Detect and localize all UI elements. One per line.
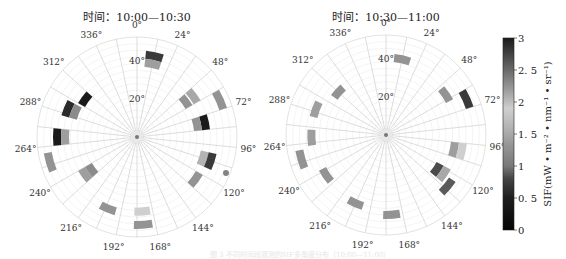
colorbar-ticks: 00. 511. 522. 53 xyxy=(514,33,537,236)
colorbar-tick-label: 2. 5 xyxy=(518,65,537,76)
colorbar-tick-label: 0 xyxy=(518,225,524,236)
azimuth-tick-label: 312° xyxy=(43,57,65,67)
figure-caption: 图 3 不同时间段观测的SIF多角度分布（10:00—11:00） xyxy=(210,250,391,259)
polar-plot-1030-1100: 时间：10:30—11:00 20°40°0°24°48°72°96°120°1… xyxy=(264,11,506,250)
azimuth-tick-label: 264° xyxy=(264,142,286,152)
sif-patch xyxy=(307,130,316,146)
azimuth-tick-label: 96° xyxy=(240,144,256,154)
radial-tick-label: 20° xyxy=(129,94,145,104)
azimuth-tick-label: 48° xyxy=(212,57,228,67)
sif-patch xyxy=(99,202,117,215)
sif-point xyxy=(223,170,229,176)
sif-patch xyxy=(44,152,57,172)
azimuth-tick-label: 48° xyxy=(461,55,477,65)
azimuth-tick-label: 72° xyxy=(236,97,252,107)
sif-patch xyxy=(295,150,308,170)
sif-patch xyxy=(134,220,153,229)
radial-tick-label: 40° xyxy=(378,54,394,64)
azimuth-tick-label: 216° xyxy=(309,221,331,231)
azimuth-tick-label: 24° xyxy=(424,28,440,38)
azimuth-tick-label: 168° xyxy=(149,242,171,252)
sif-patch xyxy=(459,89,474,109)
radial-tick-label: 40° xyxy=(129,56,145,66)
colorbar-gradient xyxy=(503,38,514,230)
azimuth-tick-label: 168° xyxy=(398,240,420,250)
azimuth-tick-label: 144° xyxy=(192,223,214,233)
azimuth-tick-label: 336° xyxy=(330,28,352,38)
azimuth-tick-label: 0° xyxy=(381,18,391,28)
colorbar-tick-label: 3 xyxy=(518,33,524,44)
sif-patch xyxy=(310,101,323,118)
colorbar-label: SIF(mW • m⁻² • nm⁻¹ • sr⁻¹) xyxy=(542,61,553,206)
azimuth-tick-label: 192° xyxy=(103,242,125,252)
sif-patch xyxy=(53,128,61,146)
colorbar: 00. 511. 522. 53 SIF(mW • m⁻² • nm⁻¹ • s… xyxy=(503,33,553,236)
colorbar-tick-label: 0. 5 xyxy=(518,193,537,204)
azimuth-tick-label: 0° xyxy=(132,20,142,30)
azimuth-tick-label: 240° xyxy=(278,186,300,196)
radial-tick-label: 20° xyxy=(378,92,394,102)
sif-polar-figure: 时间：10:00—10:30 20°40°0°24°48°72°96°120°1… xyxy=(0,0,566,259)
sif-patch xyxy=(134,207,150,216)
colorbar-tick-label: 2 xyxy=(518,97,524,108)
colorbar-tick-label: 1 xyxy=(518,161,524,172)
sif-patch xyxy=(78,91,92,107)
sif-patch xyxy=(383,210,401,219)
azimuth-tick-label: 288° xyxy=(20,97,42,107)
azimuth-tick-label: 120° xyxy=(472,186,494,196)
sif-patch xyxy=(61,129,69,145)
azimuth-tick-label: 144° xyxy=(441,221,463,231)
azimuth-tick-label: 192° xyxy=(352,240,374,250)
azimuth-tick-label: 240° xyxy=(29,188,51,198)
azimuth-tick-label: 336° xyxy=(81,30,103,40)
azimuth-tick-label: 312° xyxy=(292,55,314,65)
azimuth-tick-label: 264° xyxy=(15,144,37,154)
sif-patch xyxy=(212,90,227,111)
azimuth-tick-label: 216° xyxy=(60,223,82,233)
polar-plot-1000-1030: 时间：10:00—10:30 20°40°0°24°48°72°96°120°1… xyxy=(15,11,257,252)
polar-grid xyxy=(286,35,486,235)
azimuth-tick-label: 24° xyxy=(175,30,191,40)
colorbar-tick-label: 1. 5 xyxy=(518,129,537,140)
azimuth-tick-label: 72° xyxy=(485,95,501,105)
sif-patch xyxy=(331,84,346,99)
azimuth-tick-label: 120° xyxy=(223,188,245,198)
azimuth-tick-label: 288° xyxy=(269,95,291,105)
